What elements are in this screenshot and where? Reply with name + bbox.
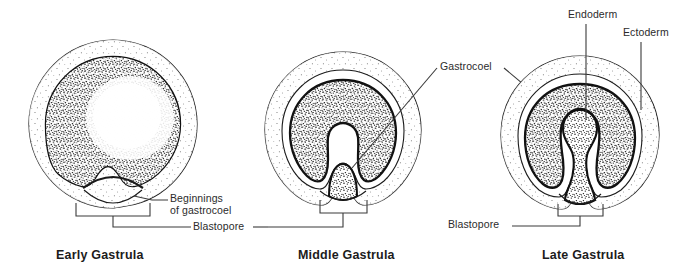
label-beginnings-of-gastrocoel: Beginningsof gastrocoel (170, 193, 231, 216)
caption-middle-gastrula: Middle Gastrula (298, 248, 395, 262)
caption-early-gastrula: Early Gastrula (56, 248, 144, 262)
late-gastrula-drawing (497, 52, 665, 226)
label-beginnings-line2: of gastrocoel (170, 204, 231, 216)
label-endoderm: Endoderm (568, 9, 617, 21)
label-beginnings-line1: Beginnings (170, 192, 223, 204)
middle-bracket-stem (268, 213, 343, 227)
caption-late-gastrula: Late Gastrula (542, 248, 625, 262)
early-bracket-stem (113, 216, 191, 227)
gastrulation-svg (0, 0, 686, 271)
late-bracket-stem (512, 216, 580, 226)
gastrulation-diagram: Beginningsof gastrocoel Blastopore Gastr… (0, 0, 686, 271)
label-blastopore-left: Blastopore (193, 221, 244, 233)
label-ectoderm: Ectoderm (623, 27, 669, 39)
label-blastopore-right: Blastopore (448, 219, 499, 231)
label-gastrocoel: Gastrocoel (440, 61, 492, 73)
middle-gastrula-drawing (261, 48, 427, 227)
